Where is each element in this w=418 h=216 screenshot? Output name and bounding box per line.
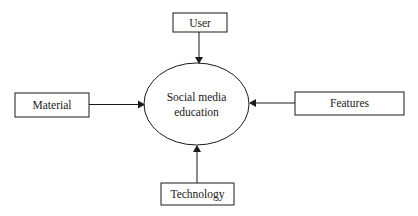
center-label-line-2: education [174,106,219,118]
edge-material-to-center [89,101,145,109]
edge-technology-to-center [193,145,201,183]
center-node: Social media education [144,63,249,145]
node-material: Material [15,93,89,117]
edge-features-to-center [249,99,295,107]
edge-user-to-center [195,32,203,64]
node-user: User [173,13,227,32]
center-ellipse [144,63,249,145]
diagram-canvas: Social media education User Material Fea… [0,0,418,216]
arrowhead-technology [193,145,201,152]
user-label: User [189,17,211,29]
arrowhead-features [249,99,256,107]
technology-label: Technology [170,188,224,201]
material-label: Material [33,99,72,111]
center-label-line-1: Social media [167,91,227,103]
features-label: Features [330,97,369,109]
node-features: Features [295,92,404,115]
node-technology: Technology [161,183,234,205]
